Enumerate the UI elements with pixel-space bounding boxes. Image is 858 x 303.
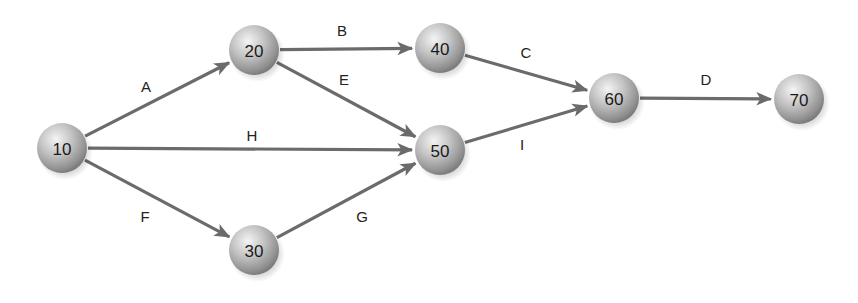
edge-label-c: C bbox=[521, 44, 532, 61]
node-label: 50 bbox=[431, 142, 450, 161]
node-50: 50 bbox=[415, 125, 471, 182]
edge-label-e: E bbox=[339, 71, 349, 88]
node-label: 30 bbox=[245, 242, 264, 261]
edge-f-arrow bbox=[85, 160, 229, 237]
node-60: 60 bbox=[589, 73, 645, 130]
node-label: 40 bbox=[431, 40, 450, 59]
node-30: 30 bbox=[229, 225, 285, 282]
node-10: 10 bbox=[37, 123, 93, 180]
edge-label-b: B bbox=[337, 22, 347, 39]
edge-label-f: F bbox=[140, 208, 149, 225]
edge-a-arrow bbox=[85, 63, 229, 136]
edge-h-arrow bbox=[88, 148, 412, 150]
node-label: 70 bbox=[790, 91, 809, 110]
nodes-layer: 10203040506070 bbox=[37, 23, 830, 282]
network-diagram: ABEHFGCID 10203040506070 bbox=[0, 0, 858, 303]
node-70: 70 bbox=[774, 74, 830, 131]
node-20: 20 bbox=[229, 25, 285, 82]
edge-label-h: H bbox=[247, 127, 258, 144]
node-label: 10 bbox=[53, 140, 72, 159]
edge-i-arrow bbox=[465, 106, 587, 143]
edge-label-d: D bbox=[701, 71, 712, 88]
edge-g-arrow bbox=[277, 163, 415, 237]
node-label: 60 bbox=[605, 90, 624, 109]
node-label: 20 bbox=[245, 42, 264, 61]
edge-label-a: A bbox=[141, 78, 151, 95]
edge-d-arrow bbox=[640, 98, 771, 99]
edge-b-arrow bbox=[280, 48, 412, 49]
edge-label-g: G bbox=[356, 208, 368, 225]
node-40: 40 bbox=[415, 23, 471, 80]
edge-label-i: I bbox=[520, 136, 524, 153]
